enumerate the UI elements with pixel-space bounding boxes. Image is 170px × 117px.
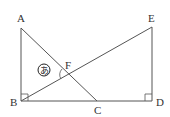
- segment-be: [21, 27, 152, 101]
- right-angle-mark-d: [145, 94, 152, 101]
- point-label-e: E: [148, 12, 155, 24]
- point-label-a: A: [17, 12, 25, 24]
- point-label-d: D: [156, 96, 164, 108]
- point-label-f: F: [65, 59, 71, 71]
- geometry-diagram: あ A B C D E F: [0, 0, 170, 117]
- angle-label: あ: [40, 66, 49, 76]
- point-label-b: B: [10, 96, 17, 108]
- point-label-c: C: [94, 104, 101, 116]
